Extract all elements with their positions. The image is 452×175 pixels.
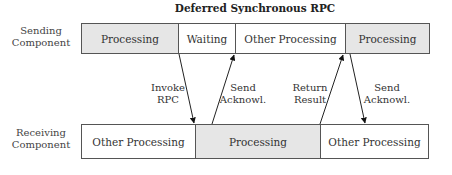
send-acknowl-label-1: Send Acknowl. — [218, 82, 268, 106]
label-line: Send — [218, 82, 268, 94]
return-result-label: Return Result — [290, 82, 330, 106]
label-line: Acknowl. — [218, 94, 268, 106]
label-line: RPC — [148, 94, 188, 106]
invoke-rpc-label: Invoke RPC — [148, 82, 188, 106]
label-line: Return — [290, 82, 330, 94]
label-line: Result — [290, 94, 330, 106]
label-line: Acknowl. — [362, 94, 412, 106]
label-line: Send — [362, 82, 412, 94]
label-line: Invoke — [148, 82, 188, 94]
send-acknowl-label-2: Send Acknowl. — [362, 82, 412, 106]
